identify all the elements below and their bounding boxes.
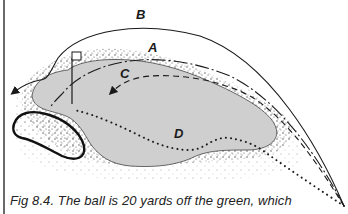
- label-b: B: [136, 7, 145, 22]
- label-d: D: [174, 126, 184, 141]
- figure-frame: B A C D Fig 8.4. The ball is 20 yards of…: [0, 0, 348, 214]
- label-c: C: [120, 66, 130, 81]
- label-a: A: [147, 40, 157, 55]
- figure-caption: Fig 8.4. The ball is 20 yards off the gr…: [10, 193, 292, 208]
- golf-diagram: B A C D: [0, 0, 348, 214]
